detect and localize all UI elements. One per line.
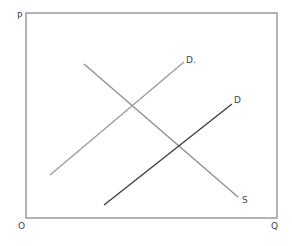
supply-curve (84, 64, 238, 197)
supply-curve-label: S (242, 196, 248, 205)
demand-curve-shifted (104, 104, 232, 205)
demand-curve-original-label: D. (186, 56, 196, 65)
origin-label: O (18, 222, 25, 231)
chart-frame (26, 13, 277, 218)
supply-demand-diagram (0, 0, 292, 246)
demand-curve-shifted-label: D (234, 96, 241, 105)
y-axis-label: P (17, 12, 22, 21)
x-axis-label: Q (271, 222, 278, 231)
